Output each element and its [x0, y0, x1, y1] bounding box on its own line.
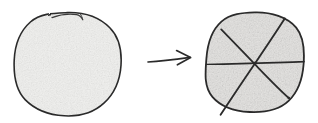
divider-endpoint-mark-bottom-right	[288, 97, 291, 100]
divider-endpoint-mark-top-right	[283, 17, 286, 20]
hand-drawn-figure	[0, 0, 318, 123]
divider-center-mark	[254, 62, 257, 65]
sketch-canvas: Whole circle transformed into a circle d…	[0, 0, 318, 123]
right-circle-group	[206, 12, 304, 114]
left-circle-fill	[14, 13, 121, 116]
left-circle-group	[14, 13, 121, 116]
